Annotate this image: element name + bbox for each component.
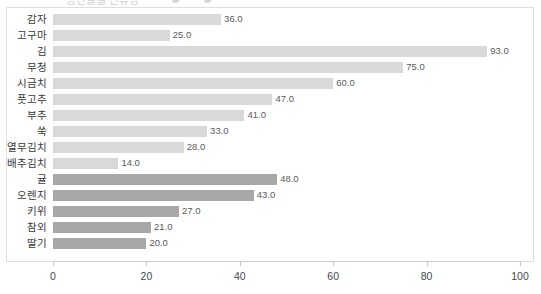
bar-row: 귤48.0 bbox=[0, 171, 541, 187]
bar bbox=[53, 206, 179, 217]
category-label: 김 bbox=[0, 43, 47, 59]
category-label: 부추 bbox=[0, 107, 47, 123]
value-label: 75.0 bbox=[406, 59, 425, 75]
category-label: 시금치 bbox=[0, 75, 47, 91]
bar-row: 딸기20.0 bbox=[0, 235, 541, 251]
bar bbox=[53, 62, 403, 73]
bar-row: 무청75.0 bbox=[0, 59, 541, 75]
category-label: 쑥 bbox=[0, 123, 47, 139]
x-axis-tick bbox=[240, 261, 241, 266]
bar bbox=[53, 110, 244, 121]
category-label: 감자 bbox=[0, 11, 47, 27]
bar-row: 쑥33.0 bbox=[0, 123, 541, 139]
bar-rows-container: 감자36.0고구마25.0김93.0무청75.0시금치60.0풋고추47.0부추… bbox=[0, 11, 541, 251]
category-label: 키위 bbox=[0, 203, 47, 219]
value-label: 21.0 bbox=[154, 219, 173, 235]
bar bbox=[53, 238, 146, 249]
x-axis-tick-label: 80 bbox=[421, 270, 433, 282]
x-axis-tick-label: 40 bbox=[234, 270, 246, 282]
bar-row: 시금치60.0 bbox=[0, 75, 541, 91]
value-label: 93.0 bbox=[490, 43, 509, 59]
category-label: 배추김치 bbox=[0, 155, 47, 171]
bar-row: 감자36.0 bbox=[0, 11, 541, 27]
bar-row: 풋고추47.0 bbox=[0, 91, 541, 107]
category-label: 오렌지 bbox=[0, 187, 47, 203]
clipped-title: 농산물별 잔류량 bbox=[66, 0, 139, 7]
category-label: 고구마 bbox=[0, 27, 47, 43]
value-label: 28.0 bbox=[187, 139, 206, 155]
value-label: 33.0 bbox=[210, 123, 229, 139]
bar bbox=[53, 126, 207, 137]
value-label: 20.0 bbox=[149, 235, 168, 251]
x-axis-tick bbox=[427, 261, 428, 266]
bar bbox=[53, 94, 272, 105]
x-axis-tick-label: 0 bbox=[50, 270, 56, 282]
value-label: 43.0 bbox=[257, 187, 276, 203]
x-axis-tick-label: 20 bbox=[141, 270, 153, 282]
value-label: 48.0 bbox=[280, 171, 299, 187]
chart-screenshot: 농산물별 잔류량 감자36.0고구마25.0김93.0무청75.0시금치60.0… bbox=[0, 0, 541, 294]
x-axis: 020406080100 bbox=[53, 261, 520, 262]
bar-row: 참외21.0 bbox=[0, 219, 541, 235]
category-label: 귤 bbox=[0, 171, 47, 187]
x-axis-tick bbox=[333, 261, 334, 266]
bar bbox=[53, 46, 487, 57]
bar bbox=[53, 142, 184, 153]
bar-row: 고구마25.0 bbox=[0, 27, 541, 43]
bar-row: 배추김치14.0 bbox=[0, 155, 541, 171]
value-label: 27.0 bbox=[182, 203, 201, 219]
value-label: 25.0 bbox=[173, 27, 192, 43]
bar bbox=[53, 30, 170, 41]
category-label: 열무김치 bbox=[0, 139, 47, 155]
category-label: 풋고추 bbox=[0, 91, 47, 107]
clipped-header: 농산물별 잔류량 bbox=[0, 0, 541, 7]
x-axis-tick-label: 60 bbox=[327, 270, 339, 282]
value-label: 36.0 bbox=[224, 11, 243, 27]
x-axis-tick bbox=[53, 261, 54, 266]
value-label: 60.0 bbox=[336, 75, 355, 91]
bar bbox=[53, 158, 118, 169]
bar-row: 열무김치28.0 bbox=[0, 139, 541, 155]
bar-row: 부추41.0 bbox=[0, 107, 541, 123]
x-axis-tick bbox=[520, 261, 521, 266]
category-label: 참외 bbox=[0, 219, 47, 235]
bar bbox=[53, 78, 333, 89]
bar-row: 김93.0 bbox=[0, 43, 541, 59]
bar bbox=[53, 222, 151, 233]
x-axis-tick-label: 100 bbox=[511, 270, 529, 282]
bar bbox=[53, 190, 254, 201]
clipped-marker-dot-icon bbox=[204, 0, 211, 3]
bar bbox=[53, 14, 221, 25]
value-label: 14.0 bbox=[121, 155, 140, 171]
category-label: 무청 bbox=[0, 59, 47, 75]
x-axis-tick bbox=[146, 261, 147, 266]
value-label: 47.0 bbox=[275, 91, 294, 107]
clipped-marker-dot-icon bbox=[172, 0, 179, 3]
bar-row: 오렌지43.0 bbox=[0, 187, 541, 203]
bar-row: 키위27.0 bbox=[0, 203, 541, 219]
bar bbox=[53, 174, 277, 185]
category-label: 딸기 bbox=[0, 235, 47, 251]
value-label: 41.0 bbox=[247, 107, 266, 123]
